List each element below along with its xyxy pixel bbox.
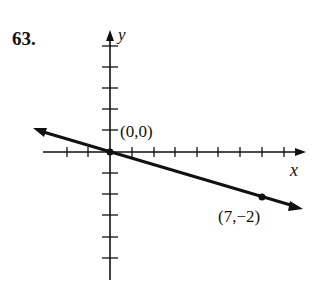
x-axis xyxy=(43,147,306,157)
plotted-line xyxy=(33,128,303,211)
line-arrow-left-icon xyxy=(33,128,47,137)
point-label: (7,−2) xyxy=(218,207,260,226)
y-axis-label: y xyxy=(116,25,126,44)
coordinate-graph: y x (0,0) (7,−2) xyxy=(0,0,318,292)
origin-point xyxy=(107,149,114,156)
y-axis-arrow-icon xyxy=(106,30,114,41)
x-axis-label: x xyxy=(289,160,298,180)
point-7-neg2 xyxy=(259,194,266,201)
line-arrow-right-icon xyxy=(288,201,303,211)
origin-label: (0,0) xyxy=(120,122,153,141)
x-axis-arrow-icon xyxy=(295,148,306,156)
